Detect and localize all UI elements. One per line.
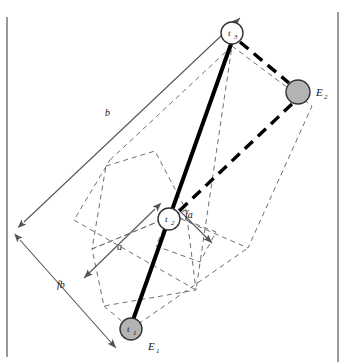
node-t1-subscript: 1 xyxy=(133,329,137,337)
dimension-label-fb: fb xyxy=(57,279,65,290)
node-t3-subscript: 3 xyxy=(233,33,238,41)
node-t3[interactable]: t 3 xyxy=(221,22,243,44)
dimension-label-fb-text: fb xyxy=(57,279,65,290)
dimension-label-fa: fa xyxy=(185,209,193,220)
dimension-arrow-b xyxy=(24,18,240,222)
diagram-canvas: t 1 t 2 t 3 E 1 E 2 b a fa xyxy=(0,0,347,364)
node-E2[interactable] xyxy=(286,80,310,104)
dashed-construction-inner-left xyxy=(92,151,186,249)
dimension-label-a-text: a xyxy=(117,241,122,252)
point-label-E2: E 2 xyxy=(315,86,328,101)
dimension-label-a: a xyxy=(117,241,122,252)
node-t1[interactable]: t 1 xyxy=(120,318,142,340)
dimension-label-fa-text: fa xyxy=(185,209,193,220)
point-label-E2-subscript: 2 xyxy=(324,93,328,101)
figure-container: t 1 t 2 t 3 E 1 E 2 b a fa xyxy=(0,0,347,364)
dashed-construction-outer-left xyxy=(74,46,232,290)
point-label-E2-text: E xyxy=(315,86,323,98)
node-t2-subscript: 2 xyxy=(171,219,175,227)
thick-solid-spine xyxy=(133,44,231,320)
dashed-construction-bottom-right xyxy=(104,248,248,329)
point-label-E1: E 1 xyxy=(147,340,160,355)
dimension-label-b-text: b xyxy=(105,107,110,118)
dimension-label-b: b xyxy=(105,107,110,118)
point-label-E1-text: E xyxy=(147,340,155,352)
point-label-E1-subscript: 1 xyxy=(156,347,160,355)
node-t2[interactable]: t 2 xyxy=(158,208,180,230)
